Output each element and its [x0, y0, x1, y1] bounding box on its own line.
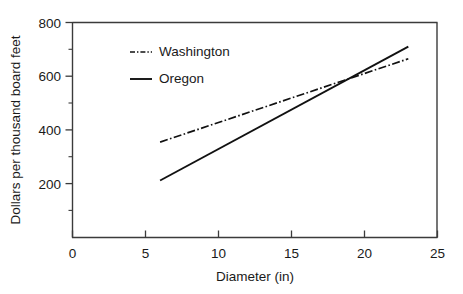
chart-figure: 800 600 400 200 0 5 10 15 20 25 Diameter… — [0, 0, 463, 294]
y-tick-label-800: 800 — [38, 16, 61, 31]
y-tick-label-200: 200 — [38, 177, 61, 192]
line-chart: 800 600 400 200 0 5 10 15 20 25 Diameter… — [0, 0, 463, 294]
legend-label-oregon: Oregon — [159, 71, 204, 86]
x-tick-label-5: 5 — [142, 246, 150, 261]
x-axis-ticks — [73, 231, 438, 238]
x-tick-label-10: 10 — [211, 246, 226, 261]
series-lines — [160, 47, 408, 181]
y-tick-labels: 800 600 400 200 — [38, 16, 61, 192]
chart-legend: Washington Oregon — [130, 44, 230, 86]
series-line-oregon — [160, 47, 408, 181]
x-tick-label-0: 0 — [69, 246, 77, 261]
x-tick-labels: 0 5 10 15 20 25 — [69, 246, 445, 261]
y-tick-label-600: 600 — [38, 69, 61, 84]
y-axis-ticks — [66, 23, 73, 211]
x-tick-label-20: 20 — [357, 246, 372, 261]
x-tick-label-25: 25 — [430, 246, 445, 261]
x-tick-label-15: 15 — [284, 246, 299, 261]
legend-label-washington: Washington — [159, 44, 230, 59]
y-tick-label-400: 400 — [38, 123, 61, 138]
x-axis-title: Diameter (in) — [216, 269, 294, 284]
y-axis-title: Dollars per thousand board feet — [8, 35, 23, 224]
